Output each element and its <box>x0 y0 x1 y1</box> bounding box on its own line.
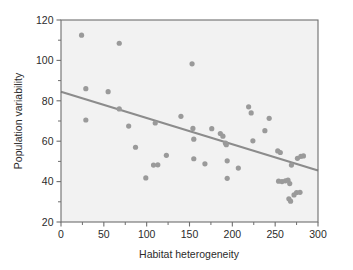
data-point <box>164 153 169 158</box>
y-axis-title: Population variability <box>12 72 24 169</box>
plot-background <box>61 20 318 222</box>
data-point <box>289 162 294 167</box>
y-tick-label: 40 <box>42 175 54 187</box>
x-tick-label: 250 <box>266 228 284 240</box>
y-tick-label: 60 <box>42 135 54 147</box>
x-tick-label: 100 <box>138 228 156 240</box>
data-point <box>220 134 225 139</box>
y-tick-label: 120 <box>36 14 54 26</box>
data-point <box>288 199 293 204</box>
scatter-plot-figure: 050100150200250300 20406080100120 Habita… <box>0 0 353 270</box>
y-tick-label: 80 <box>42 95 54 107</box>
data-point <box>297 190 302 195</box>
x-axis-title: Habitat heterogeneity <box>139 248 240 260</box>
data-point <box>225 176 230 181</box>
data-point <box>267 116 272 121</box>
x-tick-label: 150 <box>181 228 199 240</box>
data-point <box>126 123 131 128</box>
data-point <box>143 175 148 180</box>
x-axis-ticks <box>61 222 318 227</box>
data-point <box>83 86 88 91</box>
y-tick-label: 100 <box>36 54 54 66</box>
data-point <box>262 128 267 133</box>
chart-canvas: 050100150200250300 20406080100120 Habita… <box>0 0 353 270</box>
data-point <box>191 156 196 161</box>
x-tick-label: 50 <box>98 228 110 240</box>
data-point <box>250 138 255 143</box>
data-point <box>287 181 292 186</box>
data-point <box>133 145 138 150</box>
data-point <box>83 117 88 122</box>
data-point <box>79 33 84 38</box>
y-axis-ticks <box>57 20 62 222</box>
data-point <box>155 162 160 167</box>
data-point <box>191 137 196 142</box>
data-point <box>202 161 207 166</box>
data-point <box>224 142 229 147</box>
y-axis-tick-labels: 20406080100120 <box>36 14 54 228</box>
data-point <box>178 114 183 119</box>
data-point <box>209 126 214 131</box>
data-point <box>153 120 158 125</box>
data-point <box>225 158 230 163</box>
data-point <box>301 153 306 158</box>
data-point <box>190 126 195 131</box>
data-point <box>249 110 254 115</box>
x-tick-label: 200 <box>224 228 242 240</box>
data-point <box>117 41 122 46</box>
data-point <box>246 104 251 109</box>
x-tick-label: 0 <box>58 228 64 240</box>
y-tick-label: 20 <box>42 216 54 228</box>
data-point <box>117 106 122 111</box>
data-point <box>236 165 241 170</box>
data-point <box>278 150 283 155</box>
x-tick-label: 300 <box>309 228 327 240</box>
data-point <box>106 89 111 94</box>
x-axis-tick-labels: 050100150200250300 <box>58 228 327 240</box>
data-point <box>189 61 194 66</box>
